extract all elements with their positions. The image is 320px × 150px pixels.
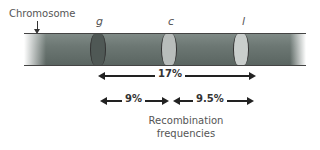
caption: Recombination frequencies [136,114,236,140]
gene-label-c: c [168,15,174,28]
gene-label-l: l [242,15,245,28]
gene-band-g [90,34,106,65]
arrowhead-left-icon [98,72,105,80]
gene-band-c [161,34,177,65]
distance-label-c-l: 9.5% [193,93,227,104]
caption-line-2: frequencies [136,127,236,140]
arrowhead-right-icon [247,97,254,105]
arrowhead-right-icon [249,72,256,80]
distance-label-g-l: 17% [155,68,185,79]
arrowhead-left-icon [100,97,107,105]
gene-band-l [233,34,249,65]
chromosome-label: Chromosome [9,8,75,19]
chromosome-pointer-icon [37,21,38,31]
caption-line-1: Recombination [136,114,236,127]
gene-label-g: g [96,15,103,28]
distance-label-g-c: 9% [122,93,145,104]
arrowhead-right-icon [162,97,169,105]
chromosome-bar [24,33,306,66]
arrowhead-left-icon [173,97,180,105]
